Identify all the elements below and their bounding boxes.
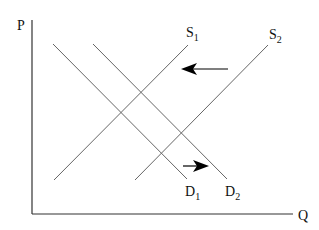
label-s2: S2 [269, 27, 282, 45]
label-s1: S1 [186, 25, 199, 43]
supply-demand-diagram: P Q S1 S2 D1 D2 [0, 0, 319, 230]
demand-curve-d2 [93, 44, 227, 179]
supply-curve-s2 [135, 45, 268, 180]
label-d1: D1 [185, 184, 200, 202]
arrow-right-icon [183, 160, 209, 172]
y-axis-label: P [17, 18, 25, 33]
arrow-left-icon [181, 63, 228, 75]
demand-curve-d1 [53, 44, 187, 179]
label-d2: D2 [225, 184, 240, 202]
x-axis-label: Q [298, 208, 308, 223]
